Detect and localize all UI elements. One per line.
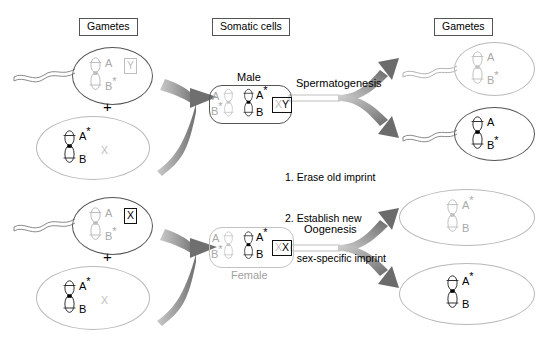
label-male: Male — [237, 72, 261, 83]
chromosome-output-egg-1 — [446, 199, 459, 233]
chromosome-output-sperm-1 — [471, 51, 484, 85]
allele-label-output-sperm-1-top: A — [487, 52, 494, 63]
chromosome-output-egg-2 — [446, 275, 459, 309]
sperm-tail-input-female — [14, 219, 75, 232]
fertilization-arrow-male — [157, 79, 217, 176]
allele-label-input-egg-male-bottom: B — [79, 154, 86, 165]
allele-label-input-egg-female-bottom: B — [79, 304, 86, 315]
cell-output-egg-1 — [399, 189, 535, 246]
allele-label-somatic-female-left-top: A — [212, 233, 219, 244]
label-oogenesis: Oogenesis — [304, 224, 357, 235]
chromosome-input-egg-female — [63, 280, 76, 314]
plus-sign-top: + — [103, 99, 112, 114]
cell-input-egg-female — [36, 266, 150, 330]
header-gametes-left: Gametes — [79, 18, 138, 36]
allele-label-somatic-female-right-bottom: B — [256, 249, 263, 260]
chromosome-input-sperm-male — [89, 57, 102, 91]
allele-label-input-sperm-male-bottom: B* — [105, 81, 117, 92]
allele-label-input-sperm-male-top: A — [105, 58, 112, 69]
chromosome-somatic-male-left — [223, 88, 234, 118]
cell-input-egg-male — [36, 116, 150, 180]
spermatogenesis-arrow — [289, 58, 399, 138]
imprinting-diagram: Gametes Somatic cells Gametes A B* Y + — [0, 0, 543, 341]
header-gametes-right: Gametes — [434, 18, 493, 36]
allele-label-output-egg-2-bottom: B — [462, 299, 469, 310]
fertilization-arrow-female — [157, 229, 217, 326]
allele-label-somatic-male-left-bottom: B* — [211, 106, 223, 117]
allele-label-output-egg-1-top: A* — [462, 200, 474, 211]
chromosome-somatic-female-left — [223, 230, 234, 261]
allele-label-output-sperm-2-bottom: B* — [487, 140, 499, 151]
sex-chromosome-input-egg-female: X — [99, 294, 110, 308]
allele-label-output-egg-2-top: A* — [462, 276, 474, 287]
chromosome-input-sperm-female — [89, 207, 102, 241]
sperm-tail-output-1 — [403, 66, 457, 78]
sex-chromosome-input-sperm-male: Y — [124, 58, 137, 74]
allele-label-input-sperm-female-top: A — [105, 208, 112, 219]
allele-label-output-egg-1-bottom: B — [462, 223, 469, 234]
allele-label-somatic-male-right-top: A* — [256, 90, 268, 101]
allele-label-output-sperm-2-top: A — [487, 117, 494, 128]
label-female: Female — [231, 270, 268, 281]
imprint-steps: 1. Erase old imprint 2. Establish new se… — [285, 144, 386, 293]
sex-chromosome-somatic-female: XX — [272, 240, 292, 256]
allele-label-input-egg-female-top: A* — [79, 281, 91, 292]
sex-chromosome-input-egg-male: X — [99, 144, 110, 158]
header-somatic-cells: Somatic cells — [212, 18, 290, 36]
imprint-step-1: 1. Erase old imprint — [285, 171, 386, 185]
allele-label-output-sperm-1-bottom: B* — [487, 75, 499, 86]
sex-chromosome-somatic-male: XY — [272, 97, 292, 113]
imprint-step-3: sex-specific imprint — [285, 252, 386, 266]
chromosome-somatic-male-right — [243, 88, 254, 118]
allele-label-input-sperm-female-bottom: B* — [105, 231, 117, 242]
chromosome-input-egg-male — [63, 130, 76, 164]
sperm-tail-output-2 — [403, 130, 457, 142]
allele-label-input-egg-male-top: A* — [79, 131, 91, 142]
chromosome-somatic-female-right — [243, 230, 254, 261]
sperm-tail-input-male — [14, 69, 75, 82]
allele-label-somatic-male-right-bottom: B — [256, 107, 263, 118]
allele-label-somatic-female-left-bottom: B* — [211, 249, 223, 260]
plus-sign-bottom: + — [103, 249, 112, 264]
label-spermatogenesis: Spermatogenesis — [296, 78, 382, 89]
sex-chromosome-input-sperm-female: X — [124, 208, 137, 224]
cell-output-egg-2 — [399, 263, 535, 325]
allele-label-somatic-female-right-top: A* — [256, 232, 268, 243]
chromosome-output-sperm-2 — [471, 116, 484, 150]
